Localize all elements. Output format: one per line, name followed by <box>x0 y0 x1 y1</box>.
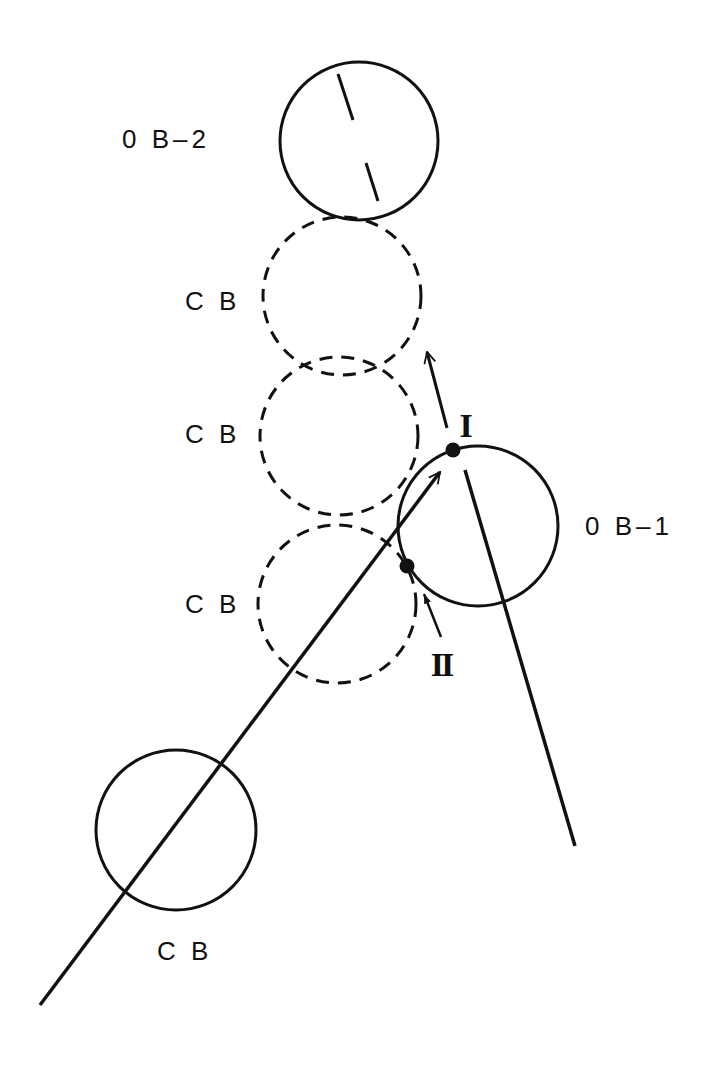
collision-diagram: I II 0 B–2 C B C B C B 0 B–1 C B <box>0 0 718 1071</box>
object-ball-2 <box>280 62 438 220</box>
label-cb-1: C B <box>185 286 240 316</box>
cue-ball-ghost-1 <box>263 217 421 375</box>
ob2-direction-mark-upper <box>338 74 353 120</box>
object-ball-1 <box>398 446 558 606</box>
label-point-2: II <box>431 646 454 683</box>
label-cb-2: C B <box>185 419 240 449</box>
cue-ball-ghost-2 <box>260 357 418 515</box>
cue-ball-start <box>96 750 256 910</box>
cue-ball-ghost-3 <box>258 525 416 683</box>
cue-ball-path <box>40 472 440 1005</box>
label-cb-start: C B <box>157 936 212 966</box>
contact-point-2 <box>400 559 415 574</box>
contact-point-1 <box>446 443 461 458</box>
label-cb-3: C B <box>185 589 240 619</box>
pointer-arrow-2 <box>424 594 441 637</box>
deflection-arrow <box>427 352 447 428</box>
label-ob1: 0 B–1 <box>585 511 673 541</box>
label-point-1: I <box>459 407 472 444</box>
ob2-direction-mark-lower <box>366 163 378 201</box>
label-ob2: 0 B–2 <box>122 124 210 154</box>
